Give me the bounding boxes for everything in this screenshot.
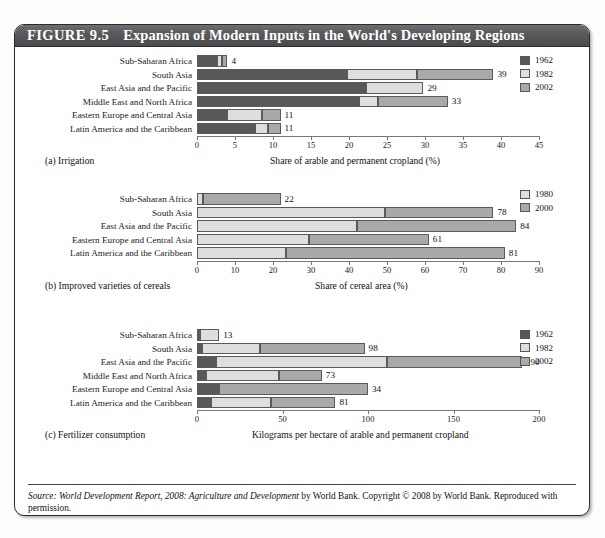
x-axis-tick-label: 90 bbox=[535, 265, 544, 275]
bar-segment-1962 bbox=[197, 383, 219, 395]
x-axis-tick-label: 10 bbox=[231, 265, 240, 275]
x-axis-tick-label: 0 bbox=[195, 265, 199, 275]
x-axis-tick-label: 70 bbox=[459, 265, 468, 275]
category-label: East Asia and the Pacific bbox=[15, 220, 197, 234]
chart-row: Sub-Saharan Africa4 bbox=[15, 55, 589, 69]
x-axis-tick-label: 0 bbox=[195, 414, 199, 424]
category-label: Sub-Saharan Africa bbox=[15, 329, 197, 343]
x-axis-tick-label: 40 bbox=[497, 140, 506, 150]
chart-row: Latin America and the Caribbean81 bbox=[15, 397, 589, 411]
bar-area: 73 bbox=[197, 370, 589, 384]
x-axis-tick-label: 20 bbox=[345, 140, 354, 150]
bar-area: 11 bbox=[197, 123, 589, 137]
legend-swatch-1980 bbox=[520, 190, 530, 199]
source-title: World Development Report, 2008: Agricult… bbox=[59, 491, 299, 501]
bar-segment-2002 bbox=[219, 383, 368, 395]
x-axis: 050100150200 bbox=[197, 410, 589, 426]
bar-segment-1980 bbox=[197, 247, 286, 259]
bar-segment-2002 bbox=[387, 356, 522, 368]
bar-segment-1982 bbox=[366, 82, 423, 94]
panel-footer: (a) IrrigationShare of arable and perman… bbox=[15, 155, 589, 171]
source-line: Source: World Development Report, 2008: … bbox=[28, 490, 580, 515]
bar-segment-1962 bbox=[197, 69, 347, 81]
x-axis-tick-label: 0 bbox=[195, 140, 199, 150]
chart-legend: 196219822002 bbox=[520, 55, 553, 92]
x-axis-tick-label: 35 bbox=[459, 140, 468, 150]
bar-segment-1962 bbox=[197, 123, 255, 135]
chart-panel-c: Sub-Saharan Africa13South Asia98East Asi… bbox=[15, 329, 589, 445]
bar-segment-2002 bbox=[262, 109, 281, 121]
bar-value-label: 29 bbox=[427, 82, 436, 94]
legend-label-2002: 2002 bbox=[535, 82, 553, 92]
bar-segment-1980 bbox=[197, 234, 309, 246]
bar-segment-2000 bbox=[286, 247, 505, 259]
x-axis-line bbox=[197, 261, 539, 262]
category-label: Eastern Europe and Central Asia bbox=[15, 109, 197, 123]
bar-segment-2000 bbox=[203, 193, 281, 205]
x-axis-tick-label: 200 bbox=[533, 414, 546, 424]
chart-rows: Sub-Saharan Africa22South Asia78East Asi… bbox=[15, 193, 589, 261]
chart-row: Latin America and the Caribbean81 bbox=[15, 247, 589, 261]
chart-legend: 19802000 bbox=[520, 189, 553, 213]
chart-row: Latin America and the Caribbean11 bbox=[15, 123, 589, 137]
category-label: Sub-Saharan Africa bbox=[15, 55, 197, 69]
chart-legend: 196219822002 bbox=[520, 329, 553, 366]
x-axis-tick-label: 25 bbox=[383, 140, 392, 150]
bar-segment-1962 bbox=[197, 55, 217, 67]
bar-segment-1982 bbox=[211, 397, 271, 409]
bar-segment-2000 bbox=[309, 234, 429, 246]
legend-item-1962: 1962 bbox=[520, 329, 553, 339]
legend-item-1980: 1980 bbox=[520, 189, 553, 199]
category-label: Latin America and the Caribbean bbox=[15, 397, 197, 411]
panel-caption: (b) Improved varieties of cereals bbox=[45, 280, 170, 291]
legend-swatch-1982 bbox=[520, 343, 530, 352]
chart-row: South Asia78 bbox=[15, 207, 589, 221]
legend-label-1980: 1980 bbox=[535, 189, 553, 199]
bar-segment-1982 bbox=[255, 123, 268, 135]
bar-segment-1982 bbox=[202, 343, 260, 355]
bar-value-label: 22 bbox=[285, 193, 294, 205]
bar-segment-1980 bbox=[197, 207, 385, 219]
chart-row: Middle East and North Africa73 bbox=[15, 370, 589, 384]
bar-area: 33 bbox=[197, 96, 589, 110]
bar-value-label: 34 bbox=[372, 383, 381, 395]
bar-value-label: 61 bbox=[433, 233, 442, 245]
chart-row: Eastern Europe and Central Asia34 bbox=[15, 383, 589, 397]
x-axis-title: Share of arable and permanent cropland (… bbox=[270, 155, 440, 166]
legend-item-1962: 1962 bbox=[520, 55, 553, 65]
bar-segment-1982 bbox=[206, 370, 279, 382]
bar-segment-2002 bbox=[279, 370, 322, 382]
x-axis-tick-label: 5 bbox=[233, 140, 237, 150]
legend-item-2000: 2000 bbox=[520, 203, 553, 213]
x-axis-title: Share of cereal area (%) bbox=[315, 280, 408, 291]
x-axis-line bbox=[197, 136, 539, 137]
bar-segment-2000 bbox=[385, 207, 493, 219]
bar-segment-2000 bbox=[357, 220, 517, 232]
legend-swatch-1982 bbox=[520, 69, 530, 78]
bar-segment-1962 bbox=[197, 82, 366, 94]
bar-value-label: 33 bbox=[452, 95, 461, 107]
bar-area: 11 bbox=[197, 109, 589, 123]
note-line: Note: Figures for improved cereal variet… bbox=[28, 515, 580, 516]
bar-segment-2002 bbox=[378, 96, 448, 108]
x-axis-tick-label: 100 bbox=[362, 414, 375, 424]
bar-value-label: 81 bbox=[509, 247, 518, 259]
bar-segment-1962 bbox=[197, 397, 211, 409]
bar-value-label: 81 bbox=[340, 396, 349, 408]
chart-row: Eastern Europe and Central Asia11 bbox=[15, 109, 589, 123]
bar-segment-1962 bbox=[197, 356, 216, 368]
bar-area: 34 bbox=[197, 383, 589, 397]
bar-value-label: 39 bbox=[497, 68, 506, 80]
x-axis-tick-label: 50 bbox=[278, 414, 287, 424]
chart-row: South Asia98 bbox=[15, 343, 589, 357]
legend-swatch-1962 bbox=[520, 56, 530, 65]
chart-rows: Sub-Saharan Africa4South Asia39East Asia… bbox=[15, 55, 589, 136]
legend-label-2002: 2002 bbox=[535, 356, 553, 366]
category-label: Latin America and the Caribbean bbox=[15, 247, 197, 261]
bar-segment-1982 bbox=[347, 69, 417, 81]
figure-page: FIGURE 9.5 Expansion of Modern Inputs in… bbox=[0, 0, 605, 538]
bar-value-label: 73 bbox=[326, 369, 335, 381]
bar-segment-2002 bbox=[417, 69, 493, 81]
category-label: South Asia bbox=[15, 207, 197, 221]
bar-value-label: 11 bbox=[285, 109, 294, 121]
